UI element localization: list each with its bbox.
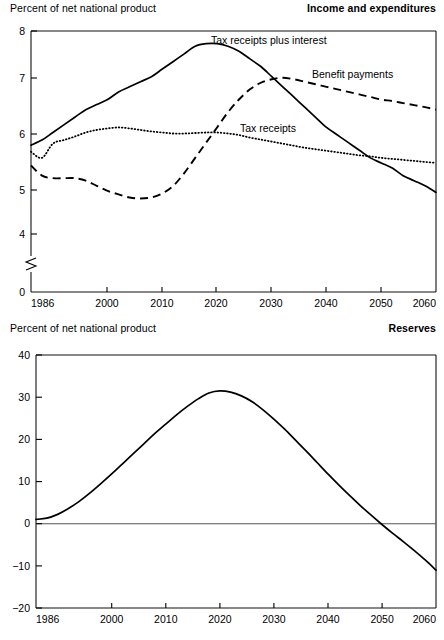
x-tick-label-2040-reserves: 2040 (316, 613, 340, 625)
x-tick-label-2000-reserves: 2000 (100, 613, 124, 625)
y-tick-label-0-income: 0 (19, 286, 25, 298)
series-line-tax-receipts (31, 127, 436, 163)
y-axis-break-marker-income (26, 258, 36, 270)
x-tick-label-2030-reserves: 2030 (262, 613, 286, 625)
y-tick-label-40-reserves: 40 (18, 349, 30, 361)
y-tick-label-6-income: 6 (19, 128, 25, 140)
x-tick-label-2020-reserves: 2020 (208, 613, 232, 625)
series-label-benefit-payments: Benefit payments (312, 68, 393, 80)
y-tick-label-minus10-reserves: −10 (12, 560, 30, 572)
x-tick-label-2020-income: 2020 (204, 297, 228, 309)
series-line-tax-receipts-plus-interest (31, 43, 436, 192)
plot-area-reserves: 40 30 20 10 0 −10 −20 1986 2000 2010 202… (0, 320, 444, 640)
series-label-tax-receipts: Tax receipts (240, 122, 296, 134)
x-tick-label-2050-income: 2050 (369, 297, 393, 309)
y-tick-label-0-reserves: 0 (24, 517, 30, 529)
y-tick-label-minus20-reserves: −20 (12, 602, 30, 614)
x-tick-label-2060-reserves: 2060 (413, 613, 437, 625)
y-tick-label-5-income: 5 (19, 184, 25, 196)
y-tick-label-8-income: 8 (19, 25, 25, 37)
y-tick-label-4-income: 4 (19, 228, 25, 240)
x-tick-label-2050-reserves: 2050 (370, 613, 394, 625)
x-tick-label-2030-income: 2030 (259, 297, 283, 309)
x-tick-label-1986-reserves: 1986 (36, 613, 60, 625)
y-tick-label-20-reserves: 20 (18, 433, 30, 445)
series-label-tax-receipts-plus-interest: Tax receipts plus interest (211, 34, 327, 46)
x-tick-label-2010-reserves: 2010 (154, 613, 178, 625)
x-tick-label-2040-income: 2040 (314, 297, 338, 309)
x-tick-label-2060-income: 2060 (413, 297, 437, 309)
plot-area-income: 8 7 6 5 4 0 1986 2000 2010 2020 2030 204… (0, 0, 444, 320)
chart-panel-income-and-expenditures: Percent of net national product Income a… (0, 0, 444, 320)
y-tick-label-7-income: 7 (19, 72, 25, 84)
x-tick-label-2010-income: 2010 (150, 297, 174, 309)
chart-panel-reserves: Percent of net national product Reserves… (0, 320, 444, 640)
x-tick-label-1986-income: 1986 (31, 297, 55, 309)
x-tick-label-2000-income: 2000 (95, 297, 119, 309)
series-line-benefit-payments (31, 78, 436, 199)
series-line-cumulative-surplus-or-deficit (36, 391, 436, 570)
y-tick-label-30-reserves: 30 (18, 391, 30, 403)
y-tick-label-10-reserves: 10 (18, 475, 30, 487)
